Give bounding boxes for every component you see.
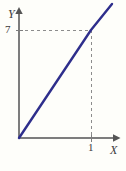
data-line-series-1 (19, 4, 112, 138)
x-tick-label-1: 1 (88, 142, 94, 153)
y-tick-label-7: 7 (5, 24, 11, 35)
plot-canvas (0, 0, 126, 171)
x-axis-label: X (110, 144, 117, 156)
y-axis-arrowhead-icon (15, 7, 22, 14)
x-axis-arrowhead-icon (113, 134, 121, 142)
figure-root: Y X 7 1 (0, 0, 126, 171)
y-axis-label: Y (8, 8, 15, 20)
